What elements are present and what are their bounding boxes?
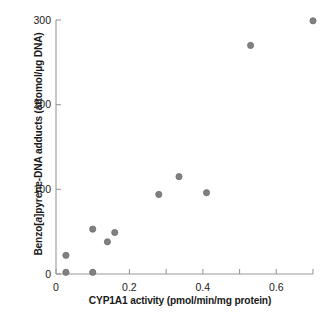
data-point [112,229,118,235]
y-tick-label: 200 [8,99,51,110]
data-point [310,18,316,24]
data-point [247,42,253,48]
data-point-series [63,18,316,276]
data-point [203,190,209,196]
x-tick-label: 0 [36,282,76,293]
data-point [90,226,96,232]
y-tick-label: 0 [8,269,51,280]
x-tick-label: 0.6 [256,282,296,293]
data-point [63,252,69,258]
data-point [156,191,162,197]
y-tick-label: 100 [8,184,51,195]
data-point [104,239,110,245]
y-axis-ticks [56,20,61,274]
data-point [176,174,182,180]
y-tick-label: 300 [8,15,51,26]
data-point [90,269,96,275]
data-point [63,269,69,275]
x-tick-label: 0.4 [183,282,223,293]
x-tick-label: 0.2 [109,282,149,293]
axis-lines [56,20,313,274]
scatter-plot-figure: Benzo[a]pyrene-DNA adducts (attomol/µg D… [0,0,325,319]
